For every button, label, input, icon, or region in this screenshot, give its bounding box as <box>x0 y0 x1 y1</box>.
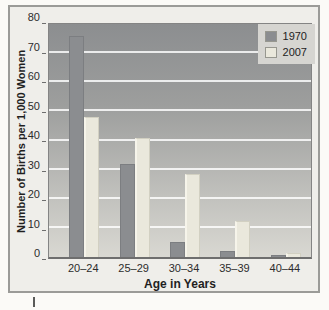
bar-group-35–39 <box>210 24 260 257</box>
y-tick-mark <box>42 171 46 172</box>
bar-2007-40–44 <box>286 253 301 257</box>
bar-1970-35–39 <box>220 251 235 257</box>
x-axis-title: Age in Years <box>48 277 312 291</box>
y-tick-mark <box>42 82 46 83</box>
legend-label: 1970 <box>283 30 307 42</box>
legend-label: 2007 <box>283 46 307 58</box>
y-tick-label: 0 <box>12 247 40 259</box>
y-tick-mark <box>42 259 46 260</box>
y-tick-label: 40 <box>12 129 40 141</box>
bar-2007-20–24 <box>84 117 99 257</box>
y-tick-mark <box>42 230 46 231</box>
bar-2007-30–34 <box>185 174 200 257</box>
y-tick-label: 60 <box>12 70 40 82</box>
y-tick-label: 50 <box>12 100 40 112</box>
bar-group-25–29 <box>109 24 159 257</box>
y-tick-mark <box>42 53 46 54</box>
y-tick-label: 30 <box>12 159 40 171</box>
bar-1970-40–44 <box>271 255 286 257</box>
y-tick-label: 80 <box>12 11 40 23</box>
page-edge-mark <box>33 297 35 307</box>
legend: 19702007 <box>258 24 315 64</box>
bar-1970-20–24 <box>69 36 84 257</box>
y-tick-mark <box>42 23 46 24</box>
x-tick-label: 40–44 <box>260 262 310 274</box>
y-tick-mark <box>42 200 46 201</box>
bar-group-20–24 <box>59 24 109 257</box>
x-tick-label: 30–34 <box>159 262 209 274</box>
x-axis-ticks: 20–2425–2930–3435–3940–44 <box>58 262 310 274</box>
y-tick-mark <box>42 112 46 113</box>
y-tick-label: 10 <box>12 218 40 230</box>
y-tick-label: 20 <box>12 188 40 200</box>
legend-item-1970: 1970 <box>265 30 307 42</box>
bar-2007-35–39 <box>235 221 250 257</box>
x-tick-label: 20–24 <box>58 262 108 274</box>
legend-swatch-1970 <box>265 31 277 42</box>
y-tick-mark <box>42 141 46 142</box>
bar-1970-30–34 <box>170 242 185 257</box>
bar-2007-25–29 <box>135 138 150 257</box>
y-axis-ticks: 01020304050607080 <box>12 23 46 259</box>
y-tick-label: 70 <box>12 41 40 53</box>
legend-item-2007: 2007 <box>265 46 307 58</box>
bar-group-30–34 <box>160 24 210 257</box>
legend-swatch-2007 <box>265 47 277 58</box>
figure-frame: Number of Births per 1,000 Women 0102030… <box>8 5 320 293</box>
bar-1970-25–29 <box>120 164 135 257</box>
x-tick-label: 25–29 <box>108 262 158 274</box>
x-tick-label: 35–39 <box>209 262 259 274</box>
